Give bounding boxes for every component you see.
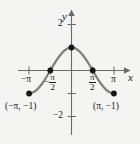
fraction-denominator: 2 xyxy=(89,83,96,92)
plot-canvas xyxy=(0,0,140,144)
marked-point-2 xyxy=(69,45,75,51)
x-tick-label-neg-pi-over-2: − π 2 xyxy=(44,73,56,92)
y-tick-label-neg-2: −2 xyxy=(53,111,63,121)
left-endpoint-label: (−π, −1) xyxy=(5,102,36,112)
x-axis-label: x xyxy=(128,72,133,83)
y-axis-arrow xyxy=(68,10,75,17)
x-tick-label-pi-over-2: π 2 xyxy=(89,73,96,92)
fraction-denominator: 2 xyxy=(49,83,56,92)
x-tick-label-pi: π xyxy=(111,75,116,85)
x-tick-label-neg-pi: −π xyxy=(21,75,31,85)
fraction-pi-over-2: π 2 xyxy=(49,73,56,92)
y-tick-label-2: 2 xyxy=(58,19,63,29)
right-endpoint-label: (π, −1) xyxy=(93,102,119,112)
marked-point-0 xyxy=(26,91,32,97)
fraction-pi-over-2-positive: π 2 xyxy=(89,73,96,92)
cosine-graph-figure: y x 2 −2 −π − π 2 π 2 π (−π, −1) (π, −1) xyxy=(0,0,140,144)
marked-point-4 xyxy=(111,91,117,97)
